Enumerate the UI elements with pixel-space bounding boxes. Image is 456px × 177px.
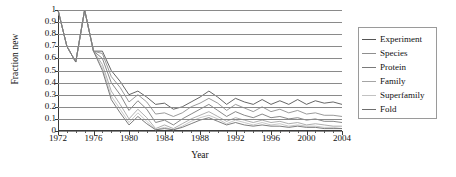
x-tick-label: 1992	[216, 133, 256, 143]
legend-swatch-icon	[362, 67, 376, 68]
y-tick-mark	[55, 46, 58, 47]
y-tick-label: 0.9	[26, 17, 56, 26]
y-tick-mark	[55, 107, 58, 108]
legend-label: Protein	[380, 63, 406, 72]
x-axis-title: Year	[58, 150, 342, 160]
y-axis-tick-labels: 00.10.20.30.40.50.60.70.80.91	[26, 0, 56, 177]
x-axis-tick-labels: 197219761980198419881992199620002004	[0, 133, 456, 147]
x-tick-label: 1980	[109, 133, 149, 143]
gridline	[58, 119, 342, 120]
legend-swatch-icon	[362, 109, 376, 110]
legend-item[interactable]: Protein	[359, 60, 436, 74]
gridline	[58, 107, 342, 108]
y-tick-mark	[55, 71, 58, 72]
y-tick-label: 0.1	[26, 114, 56, 123]
chart-figure: Fraction new 00.10.20.30.40.50.60.70.80.…	[0, 0, 456, 177]
gridline	[58, 95, 342, 96]
gridline	[58, 71, 342, 72]
y-tick-label: 1	[26, 5, 56, 14]
y-tick-label: 0.8	[26, 29, 56, 38]
legend-swatch-icon	[362, 95, 376, 96]
x-tick-label: 2004	[322, 133, 362, 143]
legend-item[interactable]: Experiment	[359, 32, 436, 46]
x-tick-label: 1976	[74, 133, 114, 143]
legend-label: Species	[380, 49, 408, 58]
legend-swatch-icon	[362, 81, 376, 82]
plot-area	[58, 10, 342, 131]
x-tick-label: 1988	[180, 133, 220, 143]
x-tick-label: 2000	[287, 133, 327, 143]
y-tick-label: 0.4	[26, 78, 56, 87]
legend-label: Fold	[380, 105, 397, 114]
legend-label: Superfamily	[380, 91, 425, 100]
y-tick-mark	[55, 10, 58, 11]
gridline	[58, 34, 342, 35]
y-tick-mark	[55, 119, 58, 120]
legend-item[interactable]: Fold	[359, 102, 436, 116]
x-tick-label: 1996	[251, 133, 291, 143]
gridline	[58, 22, 342, 23]
legend-item[interactable]: Species	[359, 46, 436, 60]
legend-swatch-icon	[362, 53, 376, 54]
legend-swatch-icon	[362, 39, 376, 40]
gridline	[58, 83, 342, 84]
gridline	[58, 58, 342, 59]
x-tick-label: 1984	[145, 133, 185, 143]
y-tick-label: 0.3	[26, 90, 56, 99]
legend: ExperimentSpeciesProteinFamilySuperfamil…	[358, 27, 437, 119]
y-tick-label: 0.5	[26, 66, 56, 75]
y-tick-mark	[55, 34, 58, 35]
y-tick-label: 0.7	[26, 41, 56, 50]
y-axis-title: Fraction new	[10, 11, 24, 107]
gridline	[58, 46, 342, 47]
y-tick-mark	[55, 95, 58, 96]
legend-label: Experiment	[380, 35, 422, 44]
y-tick-mark	[55, 58, 58, 59]
y-tick-label: 0.2	[26, 102, 56, 111]
legend-label: Family	[380, 77, 406, 86]
legend-item[interactable]: Family	[359, 74, 436, 88]
gridline	[58, 10, 342, 11]
y-tick-mark	[55, 83, 58, 84]
y-tick-label: 0.6	[26, 53, 56, 62]
legend-item[interactable]: Superfamily	[359, 88, 436, 102]
y-tick-mark	[55, 22, 58, 23]
x-tick-label: 1972	[38, 133, 78, 143]
